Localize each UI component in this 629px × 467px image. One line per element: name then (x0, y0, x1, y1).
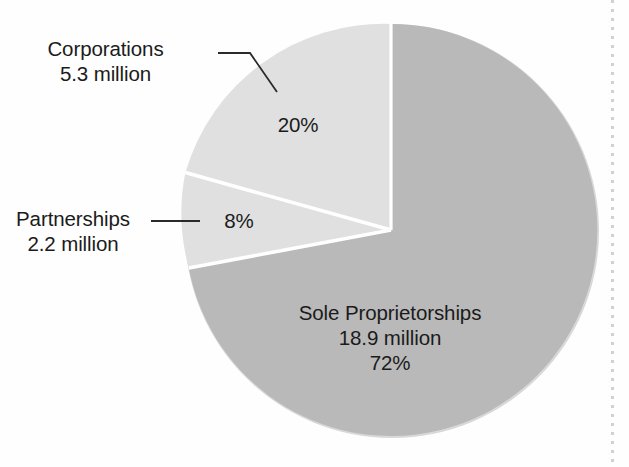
slice-label-partnerships-percent: 8% (206, 208, 272, 233)
pie-chart-figure: Corporations 5.3 million Partnerships 2.… (0, 0, 629, 467)
callout-partnerships: Partnerships 2.2 million (0, 206, 146, 256)
slice-label-sole-percent: 72% (240, 350, 540, 375)
slice-label-sole-amount: 18.9 million (240, 325, 540, 350)
callout-corporations-name: Corporations (47, 37, 163, 60)
page-edge-dotted-rule (611, 0, 614, 467)
slice-label-sole-name: Sole Proprietorships (240, 300, 540, 325)
callout-partnerships-name: Partnerships (16, 207, 130, 230)
callout-corporations-amount: 5.3 million (60, 62, 151, 85)
slice-label-sole-proprietorships: Sole Proprietorships 18.9 million 72% (240, 300, 540, 375)
slice-label-corporations-percent: 20% (262, 112, 334, 137)
callout-partnerships-amount: 2.2 million (27, 232, 118, 255)
callout-corporations: Corporations 5.3 million (0, 36, 211, 86)
